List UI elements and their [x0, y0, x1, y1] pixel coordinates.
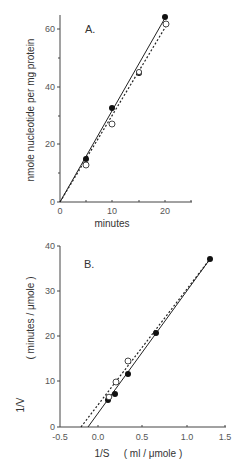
b-ytick-0: 0 — [50, 422, 55, 432]
a-ytick-0: 0 — [50, 197, 55, 207]
figure: 0 20 40 60 0 10 20 minutes nmole nucleot… — [0, 0, 242, 476]
a-ytick-20: 20 — [45, 139, 55, 149]
b-xtick-10: 1.0 — [181, 432, 194, 442]
panel-a: 0 20 40 60 0 10 20 minutes nmole nucleot… — [25, 14, 192, 229]
b-y-axis-fraction: 1/V — [15, 397, 26, 412]
a-dashed-fit-line — [60, 26, 166, 202]
a-xtick-10: 10 — [107, 206, 117, 216]
b-ytick-20: 20 — [45, 331, 55, 341]
panel-b-label: B. — [84, 258, 94, 270]
b-y-axis-units: ( minutes / μmole ) — [25, 276, 36, 359]
panel-a-label: A. — [85, 23, 95, 35]
b-x-axis-units: ( ml / μmole ) — [124, 448, 183, 459]
a-y-axis-label: nmole nucleotide per mg protein — [25, 39, 36, 182]
a-ytick-60: 60 — [45, 24, 55, 34]
a-xtick-0: 0 — [57, 206, 62, 216]
a-ytick-40: 40 — [45, 82, 55, 92]
panel-b: 0 10 20 30 40 -0.5 0.0 0.5 1.0 1.5 1/S (… — [15, 241, 231, 459]
b-xtick-15: 1.5 — [219, 432, 232, 442]
b-xtick-neg05: -0.5 — [52, 432, 68, 442]
b-ytick-10: 10 — [45, 376, 55, 386]
b-ytick-40: 40 — [45, 241, 55, 251]
b-xtick-00: 0.0 — [92, 432, 105, 442]
b-x-axis-fraction: 1/S — [94, 448, 109, 459]
b-xtick-05: 0.5 — [136, 432, 149, 442]
a-x-axis-label: minutes — [94, 218, 129, 229]
a-xtick-20: 20 — [160, 206, 170, 216]
b-ytick-30: 30 — [45, 286, 55, 296]
b-dashed-fit-line — [81, 259, 210, 427]
